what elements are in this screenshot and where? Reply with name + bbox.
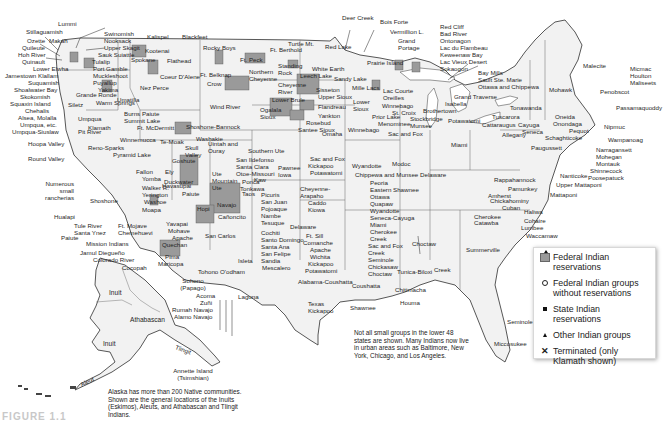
legend-label: State Indian reservations [553,304,650,324]
label-hoopa-valley: Hoopa Valley [28,140,64,147]
label-narragansett: Narragansett [596,146,632,153]
label-upper-skagit: Upper Skagit [104,44,140,51]
label-pima: Pima [165,253,179,260]
label-stillaguamish: Stillaguamish [26,28,63,35]
legend-item-terminated: ✕ Terminated (only Klamath shown) [539,346,650,366]
label-alamo-navajo: Alamo Navajo [174,313,213,320]
label-shoshone-ca: Shoshone [90,197,118,204]
label-flandreau: Flandreau [318,103,346,110]
label-tonkawa: Tonkawa [240,185,264,192]
legend-item-state-reservations: State Indian reservations [539,304,650,324]
label-fallon: Fallon [136,168,153,175]
label-santo-domingo: Santo Domingo [261,236,304,243]
legend-item-federal-groups: Federal Indian groups without reservatio… [539,278,650,298]
label-tule-river: Tule River [74,222,102,229]
label-mescalero: Mescalero [262,264,291,271]
label-wampanoag: Wampanoag [608,136,643,143]
label-shoalwater: Shoalwater Bay [14,86,57,93]
label-shinnecock: Shinnecock [590,167,622,174]
label-miccosukee: Miccosukee [494,340,527,347]
label-san-felipe: San Felipe [261,250,291,257]
label-mille-lacs: Mille Lacs [352,84,380,91]
label-catawba: Catawba [474,219,498,226]
label-mohawk: Mohawk [549,86,572,93]
label-micmac: Micmac [630,65,651,72]
label-mattaponi: Mattaponi [550,191,577,198]
label-suquamish: Suquamish [28,79,59,86]
label-bad-river: Bad River [440,30,467,37]
label-santa-clara: Santa Clara [236,163,269,170]
label-coeur-dalene: Coeur D'Alene [160,73,200,80]
label-nez-perce: Nez Perce [140,84,169,91]
label-cheyenne-arapaho: Cheyenne-Arapaho [300,185,336,199]
label-miami-ok: Miami [370,221,387,228]
federal-reservation-icon [539,252,550,262]
label-sauk-suiattle: Sauk Suiattle [98,51,134,58]
label-ft-peck: Ft. Peck [240,56,263,63]
label-southern-ute: Southern Ute [248,147,284,154]
label-sac-fox-ia: Sac and Fox [388,130,423,137]
label-potawatomi-ks: Potawatomi [310,169,342,176]
label-eastern-shawnee: Eastern Shawnee [370,186,419,193]
label-rosebud: Rosebud [306,119,331,126]
label-yomba: Yomba [142,175,161,182]
label-shoshone-bannock: Shoshone-Bannock [186,123,240,130]
triangle-icon [539,330,550,340]
map-legend: Federal Indian reservations Federal Indi… [533,247,656,359]
label-acoma: Acoma [196,292,215,299]
label-seneca: Seneca [522,128,543,135]
filled-square-icon [539,304,550,314]
label-grande-ronde: Grande Ronde [76,91,117,98]
label-haliwa: Haliwa [524,208,543,215]
label-isabella: Isabella [445,100,466,107]
label-schaghticoke: Schaghticoke [545,134,582,141]
label-summit-lake: Summit Lake [124,117,160,124]
label-wichita: Wichita [310,253,330,260]
label-spokane: Spokane [131,56,155,63]
label-tuscarora: Tuscarora [492,113,520,120]
label-lower-elwha: Lower Elwha [33,65,68,72]
label-sandy-lake: Sandy Lake [334,75,367,82]
label-iowa: Iowa [278,171,291,178]
label-jamestown: Jamestown Klallam [5,72,58,79]
label-pequot: Pequot [569,127,589,134]
label-santa-ana: Santa Ana [261,243,290,250]
label-poosepatuck: Poosepatuck [588,174,624,181]
label-houma: Houma [400,299,420,306]
label-chickasaw: Chickasaw [368,263,398,270]
label-ft-mojave: Ft. Mojave [118,222,147,229]
legend-label: Federal Indian groups without reservatio… [553,278,650,298]
label-upper-mattaponi: Upper Mattaponi [556,181,602,188]
label-pojoaque: Pojoaque [261,205,287,212]
label-vermillion: Vermillion L. [390,28,424,35]
label-modoc: Modoc [392,160,411,167]
label-peoria: Peoria [370,179,388,186]
label-rumah-navajo: Rumah Navajo [172,306,213,313]
label-cheyenne-river: Cheyenne River [278,81,308,95]
label-sac-fox-ok: Sac and Fox [310,155,345,162]
label-caddo: Caddo [308,199,326,206]
label-apache-ok: Apache [310,246,331,253]
label-isleta: Isleta [238,257,253,264]
label-bay-mills: Bay Mills [478,69,503,76]
label-sohono: Sohono (Papago) [178,277,208,291]
label-sokaogon: Sokaogon [440,65,468,72]
label-montauk: Montauk [596,160,620,167]
label-pawnee: Pawnee [278,164,300,171]
label-menominee: Menominee [378,120,410,127]
label-cuban: Cuban [502,204,520,211]
label-hualapi: Hualapi [54,213,75,220]
label-skokomish: Skokomish [20,93,50,100]
label-chickahominy: Chickahominy [490,197,529,204]
label-yavapai: Yavapai [166,220,188,227]
label-penobscot: Penobscot [600,88,629,95]
label-nanticoke: Nanticoke [560,172,588,179]
label-keweenaw-bay: Keweenaw Bay [440,51,483,58]
label-texas-kickapoo: Texas Kickapoo [308,300,334,314]
legend-label: Federal Indian reservations [553,252,650,272]
label-ute-mountain: Ute Mountain Ute [212,170,230,191]
label-wyandotte-ks: Wyandotte [352,162,382,169]
label-colorado-river: Colorado River [93,256,134,263]
label-kalispel: Kalispel [147,33,169,40]
label-ontonagon: Ontonagon [440,37,471,44]
